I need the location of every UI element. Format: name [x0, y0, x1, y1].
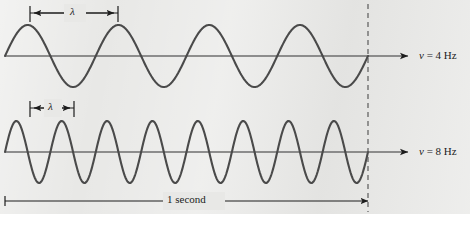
lambda-upper-label-backing	[64, 4, 86, 22]
wave-frequency-figure: λ λ ν = 4 Hz ν = 8 Hz 1 second	[0, 0, 470, 238]
wavelength-label-lower: λ	[48, 100, 53, 112]
frequency-label-upper: ν = 4 Hz	[419, 49, 457, 61]
wave-drawing-layer	[0, 0, 470, 238]
frequency-value-lower: = 8 Hz	[427, 145, 457, 157]
lambda-lower-label-backing	[44, 99, 62, 117]
one-second-label: 1 second	[167, 193, 206, 205]
wavelength-label-upper: λ	[70, 5, 75, 17]
frequency-label-lower: ν = 8 Hz	[419, 145, 457, 157]
frequency-value-upper: = 4 Hz	[427, 49, 457, 61]
